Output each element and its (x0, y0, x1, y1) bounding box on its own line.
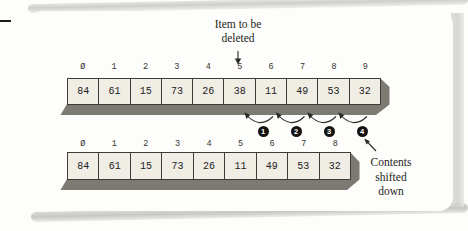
figure-array-deletion: Ø 1 2 3 4 5 6 7 8 9 84 61 15 73 26 38 11… (0, 0, 468, 231)
index-label: Ø (67, 62, 98, 72)
shift-step-4-badge: 4 (357, 126, 368, 137)
array-cell-to-delete: 38 (223, 79, 254, 104)
array-cell: 53 (317, 79, 348, 104)
index-label: 7 (288, 139, 320, 149)
array-cell: 15 (130, 79, 161, 104)
index-label: 4 (193, 62, 224, 72)
index-label: 2 (130, 139, 162, 149)
array-cell: 73 (161, 79, 192, 104)
index-label: 8 (320, 139, 352, 149)
index-label: 7 (287, 62, 318, 72)
index-label: 3 (161, 62, 192, 72)
top-array-indices: Ø 1 2 3 4 5 6 7 8 9 (67, 62, 381, 72)
index-label: 2 (130, 62, 161, 72)
index-label: 4 (193, 139, 225, 149)
shift-step-3-badge: 3 (324, 126, 335, 137)
array-cell: 15 (130, 153, 161, 179)
deleted-label-line2: deleted (177, 32, 299, 46)
array-cell: 32 (319, 153, 350, 179)
item-to-be-deleted-label: Item to be deleted (177, 18, 299, 45)
bottom-array: 84 61 15 73 26 11 49 53 32 (67, 152, 351, 180)
array-cell: 26 (192, 79, 223, 104)
shifted-note-line3: down (360, 184, 422, 199)
array-cell: 11 (255, 79, 286, 104)
index-label: 8 (318, 62, 349, 72)
index-label: 3 (162, 139, 194, 149)
index-label: 9 (350, 62, 381, 72)
array-cell: 26 (193, 153, 224, 179)
bottom-array-indices: Ø 1 2 3 4 5 6 7 8 (67, 139, 351, 149)
index-label: 6 (255, 62, 286, 72)
shifted-note-line1: Contents (360, 155, 422, 170)
array-cell: 84 (68, 153, 98, 179)
index-label: 1 (98, 62, 129, 72)
array-cell: 49 (256, 153, 287, 179)
index-label: 1 (99, 139, 131, 149)
shifted-note-line2: shifted (360, 170, 422, 185)
index-label: Ø (67, 139, 99, 149)
index-label: 5 (225, 139, 257, 149)
array-cell: 49 (286, 79, 317, 104)
contents-shifted-down-label: Contents shifted down (360, 155, 422, 199)
array-cell: 61 (98, 153, 129, 179)
shift-step-2-badge: 2 (291, 126, 302, 137)
array-cell: 61 (98, 79, 129, 104)
array-cell: 53 (287, 153, 318, 179)
shift-step-1-badge: 1 (258, 126, 269, 137)
deleted-label-line1: Item to be (177, 18, 299, 32)
margin-tick (0, 20, 11, 22)
array-cell: 84 (68, 79, 98, 104)
index-label: 6 (256, 139, 288, 149)
array-cell: 11 (224, 153, 255, 179)
top-array: 84 61 15 73 26 38 11 49 53 32 (67, 78, 381, 105)
index-label: 5 (224, 62, 255, 72)
array-cell: 32 (349, 79, 380, 104)
array-cell: 73 (161, 153, 192, 179)
